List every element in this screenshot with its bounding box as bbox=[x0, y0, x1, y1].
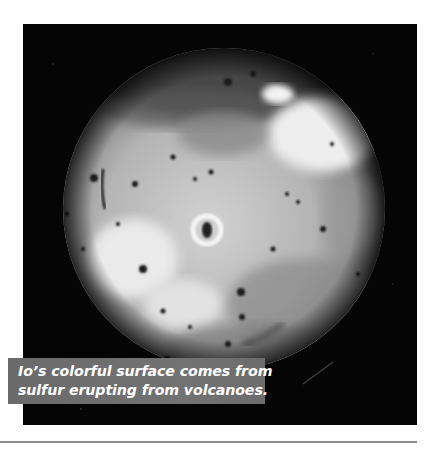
horizontal-rule bbox=[0, 441, 417, 443]
caption-line-2: sulfur erupting from volcanoes. bbox=[18, 381, 265, 400]
caption-line-1: Io’s colorful surface comes from bbox=[18, 362, 265, 381]
figure-caption: Io’s colorful surface comes from sulfur … bbox=[8, 358, 265, 404]
